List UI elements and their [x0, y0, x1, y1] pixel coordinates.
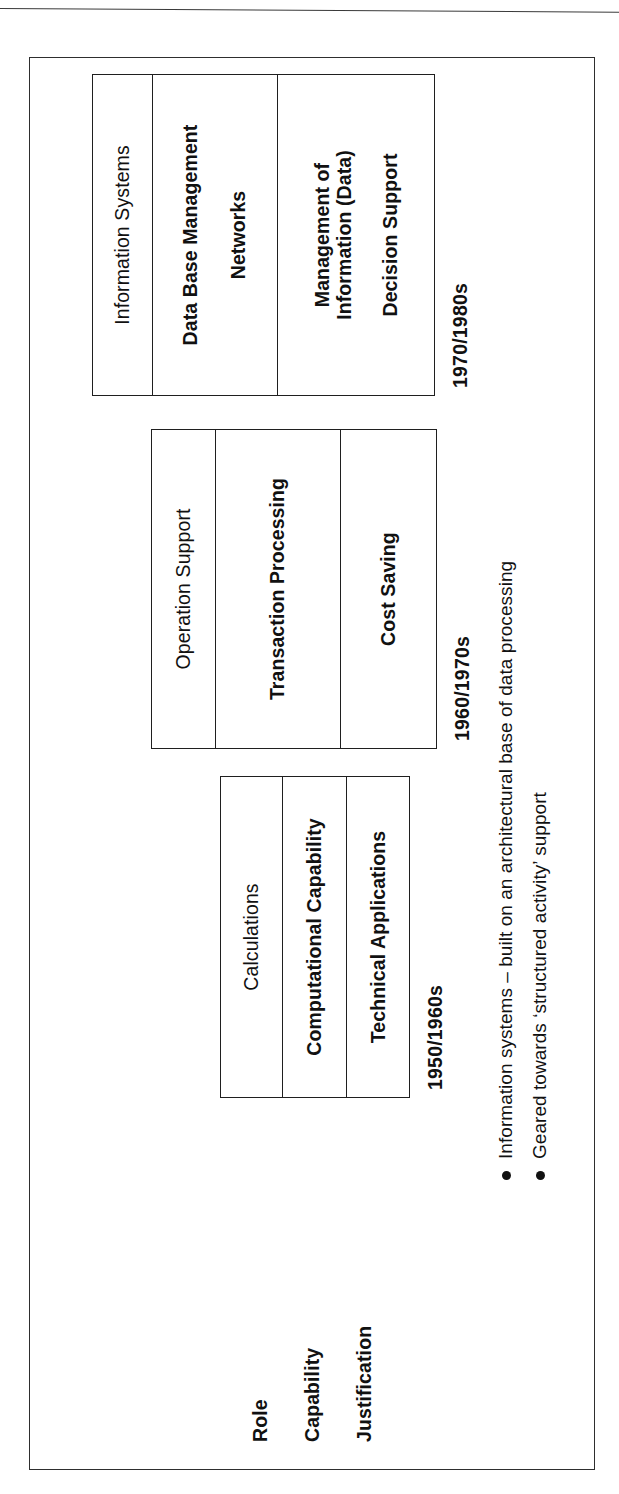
era-1950s-role-cell: Calculations [221, 777, 283, 1097]
row-label-justification: Justification [353, 1326, 376, 1442]
bullet-dot-icon [536, 1171, 545, 1180]
era-1970s-justification-line2: Information (Data) [334, 150, 356, 320]
era-1970s-justification-cell: Management of Information (Data) Decisio… [278, 75, 436, 395]
bullet-text-1: Information systems – built on an archit… [495, 561, 517, 1159]
bullet-text-2: Geared towards ‘structured activity’ sup… [529, 792, 551, 1159]
era-1960s-capability-text: Transaction Processing [267, 478, 289, 700]
era-1950s-role-text: Calculations [241, 883, 263, 990]
row-label-role: Role [249, 1399, 272, 1442]
era-1960s-role-text: Operation Support [173, 508, 195, 669]
era-1970s-justification-line3: Decision Support [380, 153, 402, 316]
era-box-1960s: Operation Support Transaction Processing… [151, 429, 437, 749]
era-1970s-role-cell: Information Systems [93, 75, 153, 395]
era-1970s-justification-line1: Management of [312, 163, 334, 307]
era-1960s-period-label: 1960/1970s [451, 636, 474, 741]
scan-top-rule [0, 8, 619, 13]
era-1950s-capability-text: Computational Capability [304, 818, 326, 1056]
era-1970s-capability-line1: Data Base Management [180, 125, 202, 346]
era-1950s-period-label: 1950/1960s [424, 985, 447, 1090]
era-1950s-justification-cell: Technical Applications [347, 777, 411, 1097]
era-1970s-capability-cell: Data Base Management Networks [153, 75, 278, 395]
row-label-capability: Capability [301, 1348, 324, 1442]
era-1960s-justification-text: Cost Saving [378, 532, 400, 646]
era-box-1950s: Calculations Computational Capability Te… [220, 776, 410, 1098]
bullet-dot-icon [502, 1171, 511, 1180]
era-1970s-period-label: 1970/1980s [449, 283, 472, 388]
era-1970s-capability-line2: Networks [228, 191, 250, 280]
era-1970s-role-text: Information Systems [112, 145, 134, 325]
slide-content-rotated: Calculations Computational Capability Te… [29, 57, 595, 1470]
era-1960s-capability-cell: Transaction Processing [216, 430, 341, 748]
era-1960s-role-cell: Operation Support [152, 430, 216, 748]
bullet-item-2: Geared towards ‘structured activity’ sup… [529, 792, 551, 1180]
era-1960s-justification-cell: Cost Saving [341, 430, 436, 748]
era-1950s-justification-text: Technical Applications [368, 831, 390, 1043]
era-box-1970s: Information Systems Data Base Management… [92, 74, 435, 396]
bullet-item-1: Information systems – built on an archit… [495, 561, 517, 1180]
era-1950s-capability-cell: Computational Capability [283, 777, 347, 1097]
